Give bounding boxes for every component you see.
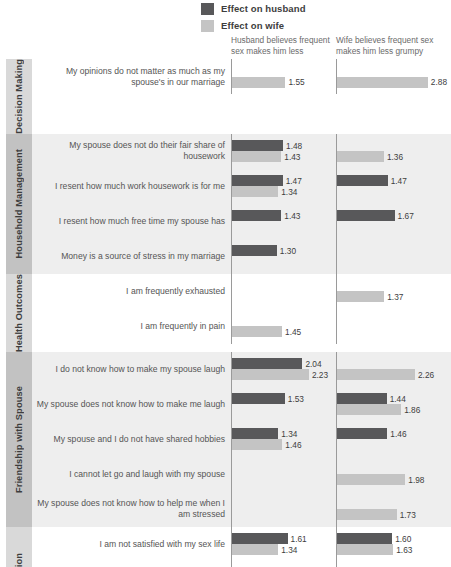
panel-1: 1.46 [336, 422, 447, 457]
bar-wife-panel1 [337, 186, 447, 197]
bar-stack: 1.441.86 [337, 387, 447, 422]
bar-value-label: 1.46 [285, 440, 301, 450]
panels: 1.531.441.86 [231, 387, 451, 422]
bar-fill-husband [232, 358, 302, 369]
panel-0: 1.601.59 [231, 562, 336, 567]
legend-label-wife: Effect on wife [221, 20, 284, 31]
bar-wife-panel1: 2.26 [337, 369, 447, 380]
bar-value-label: 1.36 [387, 152, 403, 162]
bar-value-label: 1.86 [404, 405, 420, 415]
panels: 1.552.88 [231, 59, 451, 94]
bar-value-label: 1.37 [387, 292, 403, 302]
bar-wife-panel1: 2.88 [337, 77, 447, 88]
bar-fill-wife [337, 291, 384, 302]
bar-husband-panel1: 1.44 [337, 393, 447, 404]
panels: 1.45 [231, 309, 451, 344]
bar-value-label: 1.67 [398, 211, 414, 221]
bar-value-label: 1.46 [390, 429, 406, 439]
panel-0: 1.30 [231, 239, 336, 274]
category-tab: Sexual Satisfaction [6, 527, 32, 567]
bar-stack: 1.55 [232, 59, 336, 94]
category-group: Sexual SatisfactionI am not satisfied wi… [0, 527, 451, 567]
bar-husband-panel0: 1.61 [232, 533, 336, 544]
bar-stack: 1.481.43 [232, 134, 336, 169]
category-tab: Friendship with Spouse [6, 352, 32, 527]
statement-row: My spouse does not know how to make me l… [32, 387, 451, 422]
category-tab: Decision Making [6, 59, 32, 134]
bar-value-label: 2.23 [312, 370, 328, 380]
bar-fill-husband [232, 140, 283, 151]
bar-wife-panel0: 1.55 [232, 77, 336, 88]
bar-fill-wife [337, 544, 393, 555]
category-group: Decision MakingMy opinions do not matter… [0, 59, 451, 134]
bar-value-label: 1.34 [281, 187, 297, 197]
bar-value-label: 1.53 [288, 394, 304, 404]
bar-wife-panel0: 1.43 [232, 151, 336, 162]
bar-wife-panel0: 1.46 [232, 439, 336, 450]
panel-1: 1.801.69 [336, 562, 447, 567]
bar-stack [232, 492, 336, 527]
bar-wife-panel0 [232, 291, 336, 302]
bar-stack: 1.601.63 [337, 527, 447, 562]
bar-value-label: 1.43 [284, 152, 300, 162]
legend-label-husband: Effect on husband [221, 3, 306, 14]
legend-swatch-wife [201, 20, 214, 32]
bar-value-label: 1.61 [291, 534, 307, 544]
panels: 1.601.591.801.69 [231, 562, 451, 567]
bar-stack: 1.601.59 [232, 562, 336, 567]
bar-wife-panel0 [232, 404, 336, 415]
statement-label: My opinions do not matter as much as my … [32, 59, 231, 94]
bar-husband-panel0: 1.48 [232, 140, 336, 151]
statement-label: I am not satisfied with my sex life [32, 527, 231, 562]
bar-stack [232, 274, 336, 309]
bar-stack: 2.26 [337, 352, 447, 387]
statement-label: I am frequently exhausted [32, 274, 231, 309]
statement-label: I resent how much free time my spouse ha… [32, 204, 231, 239]
bar-stack: 1.36 [337, 134, 447, 169]
bar-fill-husband [337, 210, 395, 221]
panel-1 [336, 309, 447, 344]
statement-label: Money is a source of stress in my marria… [32, 239, 231, 274]
bar-wife-panel1 [337, 256, 447, 267]
panel-1: 2.26 [336, 352, 447, 387]
panels: 2.042.232.26 [231, 352, 451, 387]
bar-stack: 1.341.46 [232, 422, 336, 457]
bar-value-label: 1.34 [281, 429, 297, 439]
bar-stack: 1.46 [337, 422, 447, 457]
statement-label: My spouse does not know how to help me w… [32, 492, 231, 527]
bar-stack [232, 457, 336, 492]
panels: 1.30 [231, 239, 451, 274]
category-label: Friendship with Spouse [14, 386, 25, 493]
column-headers: Husband believes frequent sex makes him … [0, 35, 451, 59]
bar-wife-panel1: 1.73 [337, 509, 447, 520]
panel-0: 1.43 [231, 204, 336, 239]
statement-row: I am frequently exhausted1.37 [32, 274, 451, 309]
bar-fill-wife [337, 369, 415, 380]
panel-1: 1.36 [336, 134, 447, 169]
bar-husband-panel1 [337, 245, 447, 256]
statement-label: I do not feel emotionally close to my sp… [32, 562, 231, 567]
legend-swatch-husband [201, 3, 214, 15]
bar-stack: 1.30 [232, 239, 336, 274]
statement-row: I cannot let go and laugh with my spouse… [32, 457, 451, 492]
legend-item-husband: Effect on husband [0, 0, 451, 17]
bar-fill-wife [337, 509, 397, 520]
bar-stack: 2.042.23 [232, 352, 336, 387]
bar-value-label: 1.47 [286, 176, 302, 186]
panels: 1.73 [231, 492, 451, 527]
bar-value-label: 1.60 [395, 534, 411, 544]
chart-body: Decision MakingMy opinions do not matter… [0, 59, 451, 567]
bar-husband-panel0: 1.47 [232, 175, 336, 186]
bar-fill-husband [232, 428, 278, 439]
bar-value-label: 1.30 [280, 246, 296, 256]
bar-wife-panel1 [337, 221, 447, 232]
bar-wife-panel1: 1.63 [337, 544, 447, 555]
bar-husband-panel0: 1.53 [232, 393, 336, 404]
bar-husband-panel0 [232, 498, 336, 509]
bar-stack: 1.98 [337, 457, 447, 492]
panel-1: 1.441.86 [336, 387, 447, 422]
bar-wife-panel1: 1.37 [337, 291, 447, 302]
panel-1: 1.67 [336, 204, 447, 239]
panels: 1.431.67 [231, 204, 451, 239]
bar-stack: 1.73 [337, 492, 447, 527]
